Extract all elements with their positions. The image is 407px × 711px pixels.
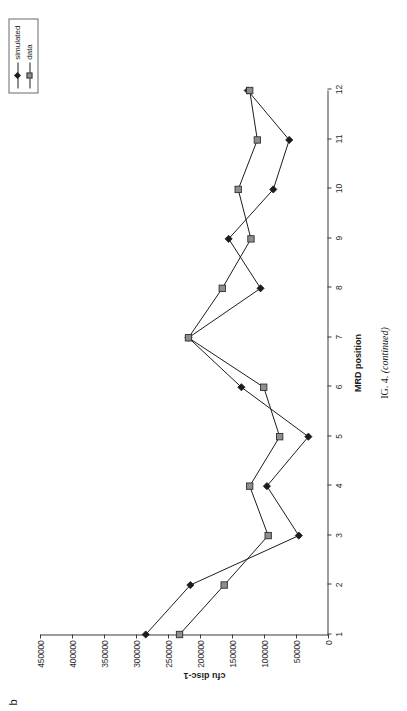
x-tickmark bbox=[327, 286, 331, 287]
x-tickmark bbox=[327, 336, 331, 337]
x-tickmark bbox=[327, 435, 331, 436]
data-point-square bbox=[176, 631, 182, 637]
y-axis-tick-label: 0 bbox=[323, 634, 333, 645]
data-point-square bbox=[235, 186, 241, 192]
series-simulated bbox=[142, 86, 312, 637]
x-tickmark bbox=[327, 138, 331, 139]
y-axis-tick-label: 50000 bbox=[291, 634, 301, 663]
legend-label-simulated: simulated bbox=[13, 25, 21, 59]
data-point-diamond bbox=[295, 531, 302, 538]
x-axis-tick-label: 5 bbox=[333, 433, 343, 438]
y-axis-title: cfu disc-1 bbox=[182, 671, 224, 681]
legend-item-data: data bbox=[24, 25, 34, 88]
legend-item-simulated: simulated bbox=[12, 25, 22, 88]
data-point-diamond bbox=[269, 185, 276, 192]
x-tickmark bbox=[327, 583, 331, 584]
y-axis-tick-label: 450000 bbox=[35, 634, 45, 667]
figure-panel-b: b simulated data cfu disc-1 050000100000… bbox=[0, 0, 407, 711]
data-point-square bbox=[185, 334, 191, 340]
x-tickmark bbox=[327, 484, 331, 485]
y-axis-tick-label: 250000 bbox=[163, 634, 173, 667]
data-point-square bbox=[260, 384, 266, 390]
data-point-square bbox=[246, 87, 252, 93]
x-axis-title: MRD position bbox=[352, 90, 362, 635]
x-axis-tick-label: 8 bbox=[333, 285, 343, 290]
data-point-diamond bbox=[304, 433, 311, 440]
legend-label-data: data bbox=[25, 44, 33, 60]
figure-rotator: b simulated data cfu disc-1 050000100000… bbox=[0, 0, 407, 711]
x-axis-tick-label: 7 bbox=[333, 334, 343, 339]
x-tickmark bbox=[327, 385, 331, 386]
y-axis-tick-label: 100000 bbox=[259, 634, 269, 667]
x-tickmark bbox=[327, 534, 331, 535]
y-axis-tick-label: 350000 bbox=[99, 634, 109, 667]
x-axis-tick-label: 11 bbox=[333, 134, 343, 143]
x-axis-tick-label: 4 bbox=[333, 483, 343, 488]
x-axis-tick-label: 6 bbox=[333, 384, 343, 389]
data-point-square bbox=[276, 433, 282, 439]
x-axis-tick-label: 9 bbox=[333, 235, 343, 240]
chart-legend: simulated data bbox=[8, 18, 38, 93]
plot-area: 0500001000001500002000002500003000003500… bbox=[40, 90, 328, 635]
x-tickmark bbox=[327, 88, 331, 89]
y-axis-tick-label: 150000 bbox=[227, 634, 237, 667]
legend-swatch-simulated bbox=[12, 62, 22, 88]
series-data bbox=[176, 87, 283, 637]
square-marker-icon bbox=[26, 72, 32, 78]
data-point-square bbox=[246, 482, 252, 488]
x-tickmark bbox=[327, 237, 331, 238]
series-line bbox=[145, 90, 308, 634]
data-point-diamond bbox=[142, 630, 149, 637]
chart-canvas bbox=[40, 90, 327, 634]
data-point-square bbox=[264, 532, 270, 538]
diamond-marker-icon bbox=[13, 72, 20, 79]
series-line bbox=[179, 90, 279, 634]
panel-letter: b bbox=[6, 699, 18, 705]
figure-caption-continued: (continued) bbox=[378, 327, 389, 373]
y-axis-tick-label: 200000 bbox=[195, 634, 205, 667]
data-point-diamond bbox=[225, 235, 232, 242]
data-point-square bbox=[247, 235, 253, 241]
data-point-square bbox=[219, 285, 225, 291]
x-axis-tick-label: 10 bbox=[333, 183, 343, 192]
figure-caption-label: IG. 4. bbox=[378, 375, 389, 398]
x-tickmark bbox=[327, 633, 331, 634]
x-axis-tick-label: 2 bbox=[333, 582, 343, 587]
x-axis-tick-label: 1 bbox=[333, 632, 343, 637]
y-axis-tick-label: 300000 bbox=[131, 634, 141, 667]
x-axis-tick-label: 12 bbox=[333, 84, 343, 93]
x-axis-tick-label: 3 bbox=[333, 533, 343, 538]
data-point-square bbox=[220, 581, 226, 587]
x-tickmark bbox=[327, 187, 331, 188]
legend-swatch-data bbox=[24, 62, 34, 88]
data-point-square bbox=[254, 136, 260, 142]
y-axis-tick-label: 400000 bbox=[67, 634, 77, 667]
data-point-diamond bbox=[186, 581, 193, 588]
figure-caption: IG. 4. (continued) bbox=[378, 90, 389, 635]
